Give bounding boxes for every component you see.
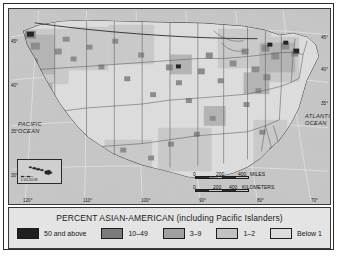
legend-label-1-2: 1–2	[243, 230, 255, 237]
hawaii-inset-map[interactable]: 0 100 200 MI	[17, 159, 62, 184]
legend-label-below-1: Below 1	[297, 230, 322, 237]
scale-km-tick-0: 0	[193, 184, 196, 190]
hawaii-inset-scale-text: 0 100 200 MI	[21, 178, 38, 182]
scale-miles-tick-200: 200	[216, 171, 224, 177]
legend-label-50-and-above: 50 and above	[44, 230, 86, 237]
choropleth-map[interactable]: PACIFIC OCEAN ATLANTIC OCEAN 45° 40° 35°…	[8, 8, 331, 205]
scale-km-tick-200: 200	[213, 184, 221, 190]
legend-item-below-1[interactable]: Below 1	[270, 228, 322, 239]
legend-item-1-2[interactable]: 1–2	[216, 228, 255, 239]
legend-swatch-3-9	[163, 228, 185, 239]
legend-swatch-1-2	[216, 228, 238, 239]
legend-title: PERCENT ASIAN-AMERICAN (including Pacifi…	[9, 208, 330, 223]
legend-item-3-9[interactable]: 3–9	[163, 228, 202, 239]
legend-swatch-50-and-above	[17, 228, 39, 239]
map-legend: PERCENT ASIAN-AMERICAN (including Pacifi…	[8, 207, 331, 249]
legend-item-50-and-above[interactable]: 50 and above	[17, 228, 86, 239]
scale-km-tick-400: 400	[229, 184, 237, 190]
screenshot-root: PACIFIC OCEAN ATLANTIC OCEAN 45° 40° 35°…	[0, 0, 337, 257]
scale-miles-tick-0: 0	[193, 171, 196, 177]
scale-miles-unit: MILES	[250, 171, 265, 177]
hawaii-inset-graphic: 0 100 200 MI	[18, 160, 61, 183]
legend-swatch-below-1	[270, 228, 292, 239]
scale-bar-miles: 0 200 400 MILES	[193, 171, 271, 184]
legend-label-3-9: 3–9	[190, 230, 202, 237]
scale-bar-km-graphic	[195, 189, 249, 192]
scale-km-unit: KILOMETERS	[242, 184, 274, 190]
scale-miles-tick-400: 400	[238, 171, 246, 177]
legend-label-10-49: 10–49	[128, 230, 147, 237]
scale-bar: 0 200 400 MILES 0 200 400 KILOMETERS	[193, 171, 271, 197]
scale-bar-kilometers: 0 200 400 KILOMETERS	[193, 184, 271, 197]
map-figure-frame: PACIFIC OCEAN ATLANTIC OCEAN 45° 40° 35°…	[3, 3, 334, 250]
legend-items: 50 and above 10–49 3–9 1–2 Below 1	[9, 223, 330, 239]
legend-item-10-49[interactable]: 10–49	[101, 228, 147, 239]
legend-swatch-10-49	[101, 228, 123, 239]
